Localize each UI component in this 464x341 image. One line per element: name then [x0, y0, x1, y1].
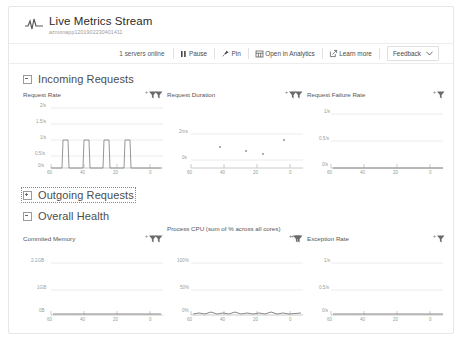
svg-text:+: + — [433, 89, 436, 95]
collapse-icon[interactable] — [23, 212, 32, 221]
x-tick-label: 20 — [253, 317, 258, 322]
y-tick-label: 50% — [180, 285, 189, 290]
section-header-outgoing-requests[interactable]: Outgoing Requests — [23, 189, 134, 201]
y-tick-label: 1.5/s — [36, 119, 46, 124]
y-tick-label: 1/s — [40, 135, 46, 140]
servers-online-status: 1 servers online — [119, 47, 173, 60]
y-tick-label: 0/s — [322, 308, 328, 313]
add-filter-icon[interactable]: + — [291, 89, 303, 100]
x-tick-label: 60 — [187, 317, 192, 322]
x-tick-label: 20 — [113, 317, 118, 322]
x-tick-label: 0 — [149, 170, 152, 175]
y-tick-label: 0.5/s — [319, 136, 329, 141]
pulse-icon — [25, 18, 43, 30]
x-tick-label: 20 — [253, 170, 258, 175]
chart-title: Request Failure Rate — [307, 91, 365, 98]
toolbar-divider-bottom — [9, 63, 453, 64]
plot-area: 1/s 0.5/s 0/s 60 40 20 0 — [307, 246, 447, 324]
chart-process-cpu: Process CPU (sum of % across all cores) … — [167, 225, 303, 325]
grid-icon — [256, 51, 263, 57]
add-filter-icon[interactable]: + — [291, 233, 303, 244]
x-tick-label: 0 — [289, 170, 292, 175]
y-tick-label: 2ms — [179, 129, 188, 134]
x-tick-label: 0 — [289, 317, 292, 322]
chart-request-rate: Request Rate + 2/s 1.5/s 1/s 0.5/s 0/s — [23, 91, 163, 179]
svg-text:+: + — [291, 233, 294, 239]
pause-button[interactable]: Pause — [174, 47, 214, 60]
feedback-dropdown[interactable]: Feedback — [387, 46, 439, 61]
x-tick-label: 20 — [393, 170, 398, 175]
add-filter-icon[interactable]: + — [433, 89, 445, 100]
y-tick-label: 1/s — [324, 109, 330, 114]
plot-area: 2/s 1.5/s 1/s 0.5/s 0/s 60 40 20 0 — [23, 102, 163, 178]
collapse-icon[interactable] — [23, 75, 32, 84]
x-tick-label: 40 — [360, 317, 365, 322]
x-tick-label: 40 — [80, 170, 85, 175]
svg-text:+: + — [151, 233, 154, 239]
live-metrics-panel: Live Metrics Stream azmonapp120190223040… — [8, 6, 454, 334]
x-tick-label: 60 — [327, 170, 332, 175]
x-tick-label: 60 — [187, 170, 192, 175]
plot-area: 100% 50% 0% 60 40 20 0 — [167, 246, 303, 324]
x-tick-label: 40 — [80, 317, 85, 322]
chart-request-failure-rate: + Request Failure Rate + 1/s 0.5/s 0/s 6… — [307, 91, 447, 179]
feedback-label: Feedback — [393, 50, 421, 57]
x-tick-label: 0 — [149, 317, 152, 322]
add-filter-icon[interactable]: + — [151, 89, 163, 100]
chart-exception-rate: + Exception Rate + 1/s 0.5/s 0/s 60 40 2… — [307, 235, 447, 325]
toolbar-divider — [379, 48, 380, 59]
open-in-analytics-label: Open in Analytics — [265, 50, 314, 57]
chart-commited-memory: Commited Memory + 2.1GB 1GB 0B 60 40 20 … — [23, 235, 163, 325]
y-tick-label: 0/s — [322, 162, 328, 167]
x-tick-label: 40 — [220, 170, 225, 175]
learn-more-button[interactable]: Learn more — [323, 47, 379, 60]
add-filter-icon[interactable]: + — [151, 233, 163, 244]
y-tick-label: 0/s — [38, 163, 44, 168]
external-link-icon — [330, 50, 337, 57]
y-tick-label: 1/s — [324, 258, 330, 263]
x-tick-label: 0 — [429, 170, 432, 175]
y-tick-label: 0% — [182, 308, 189, 313]
x-tick-label: 60 — [47, 317, 52, 322]
svg-text:+: + — [145, 89, 148, 95]
section-label: Overall Health — [38, 210, 109, 222]
plot-area: 1/s 0.5/s 0/s 60 40 20 0 — [307, 102, 447, 178]
open-in-analytics-button[interactable]: Open in Analytics — [249, 47, 322, 60]
plot-area: 2.1GB 1GB 0B 60 40 20 0 — [23, 246, 163, 324]
y-tick-label: 0B — [39, 308, 45, 313]
svg-text:+: + — [433, 233, 436, 239]
y-tick-label: 0.5/s — [35, 151, 45, 156]
expand-icon[interactable] — [23, 191, 32, 200]
chart-title: Exception Rate — [307, 235, 349, 242]
x-tick-label: 20 — [393, 317, 398, 322]
x-tick-label: 40 — [360, 170, 365, 175]
section-label: Incoming Requests — [38, 73, 134, 85]
svg-text:+: + — [291, 89, 294, 95]
section-header-incoming-requests[interactable]: Incoming Requests — [23, 73, 134, 85]
add-filter-icon[interactable]: + — [433, 233, 445, 244]
section-label: Outgoing Requests — [38, 189, 134, 201]
chart-title: Process CPU (sum of % across all cores) — [167, 225, 280, 232]
pause-label: Pause — [189, 50, 207, 57]
y-tick-label: 2.1GB — [31, 258, 44, 263]
plot-area: 2ms 0s 60 40 20 0 — [167, 102, 303, 178]
panel-header: Live Metrics Stream azmonapp120190223040… — [9, 7, 453, 43]
y-tick-label: 0.5/s — [319, 285, 329, 290]
y-tick-label: 2/s — [40, 103, 46, 108]
x-tick-label: 40 — [220, 317, 225, 322]
pin-icon — [222, 50, 229, 57]
pause-icon — [181, 51, 186, 57]
y-tick-label: 0s — [182, 155, 187, 160]
x-tick-label: 20 — [113, 170, 118, 175]
chart-title: Commited Memory — [23, 235, 75, 242]
y-tick-label: 1GB — [37, 285, 46, 290]
chart-request-duration: + Request Duration + 2ms 0s 60 40 — [167, 91, 303, 179]
y-tick-label: 100% — [177, 258, 189, 263]
section-header-overall-health[interactable]: Overall Health — [23, 210, 109, 222]
pin-button[interactable]: Pin — [215, 47, 248, 60]
learn-more-label: Learn more — [339, 50, 372, 57]
x-tick-label: 0 — [429, 317, 432, 322]
x-tick-label: 60 — [327, 317, 332, 322]
chart-title: Request Duration — [167, 91, 215, 98]
svg-text:+: + — [151, 89, 154, 95]
